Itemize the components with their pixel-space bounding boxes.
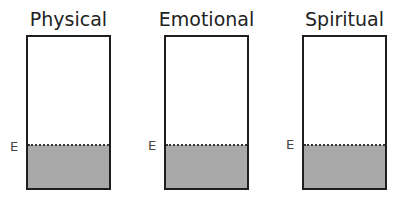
fill-level <box>28 145 109 188</box>
container-title: Emotional <box>150 7 263 31</box>
level-dotted-line <box>304 144 385 146</box>
level-marker-label: E <box>148 139 156 153</box>
level-dotted-line <box>28 144 109 146</box>
container-title: Physical <box>16 7 121 31</box>
fill-level <box>166 145 247 188</box>
container-physical: Physical E <box>26 0 111 197</box>
level-marker-label: E <box>10 140 18 154</box>
level-dotted-line <box>166 144 247 146</box>
fill-level <box>304 145 385 188</box>
container-spiritual: Spiritual E <box>302 0 387 197</box>
level-marker-label: E <box>286 138 294 152</box>
tank <box>302 35 387 190</box>
tank <box>164 35 249 190</box>
container-title: Spiritual <box>292 7 397 31</box>
tank <box>26 35 111 190</box>
container-emotional: Emotional E <box>164 0 249 197</box>
